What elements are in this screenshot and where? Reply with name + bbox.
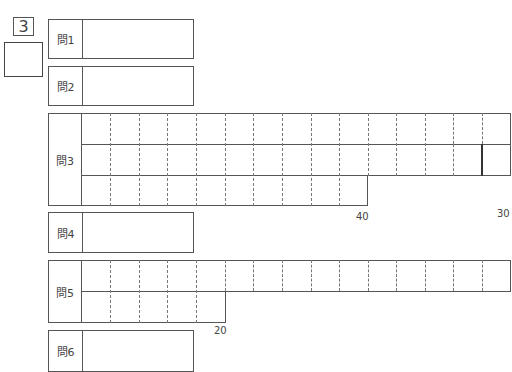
question-4-label: 問4 — [49, 213, 83, 252]
score-box[interactable] — [4, 42, 43, 77]
grid-col-divider — [167, 260, 168, 323]
question-3-label: 問3 — [56, 152, 74, 168]
question-5-label: 問5 — [56, 284, 74, 300]
question-5-grid-row-1[interactable] — [81, 260, 511, 292]
grid-col-divider — [311, 113, 312, 206]
question-2-label: 問2 — [49, 67, 83, 105]
grid-col-divider — [396, 113, 397, 176]
grid-col-divider — [453, 260, 454, 291]
question-3-label-cell: 問3 — [48, 113, 82, 206]
question-6-label: 問6 — [49, 331, 83, 371]
grid-col-divider — [311, 260, 312, 291]
grid-col-divider — [425, 260, 426, 291]
char-count-marker-20: 20 — [214, 325, 227, 336]
question-1-answer-field[interactable] — [83, 20, 193, 58]
question-6-answer-field[interactable] — [83, 331, 193, 371]
section-number: 3 — [13, 17, 34, 36]
grid-col-divider — [196, 260, 197, 323]
question-3-box: 問3 — [48, 113, 511, 206]
grid-col-divider — [110, 113, 111, 206]
grid-col-divider — [396, 260, 397, 291]
char-count-marker-30: 30 — [497, 208, 510, 219]
grid-col-divider — [368, 260, 369, 291]
grid-col-divider — [253, 260, 254, 291]
grid-col-divider — [282, 260, 283, 291]
grid-col-divider — [339, 260, 340, 291]
grid-col-divider — [225, 113, 226, 206]
grid-col-divider — [453, 113, 454, 144]
question-2-answer-field[interactable] — [83, 67, 193, 105]
grid-col-divider — [110, 260, 111, 323]
question-2-box: 問2 — [48, 66, 194, 106]
char-count-marker-40: 40 — [356, 211, 369, 222]
grid-col-divider — [196, 113, 197, 206]
grid-col-divider — [482, 113, 483, 144]
grid-col-divider — [253, 113, 254, 206]
question-1-label: 問1 — [49, 20, 83, 58]
grid-col-divider — [167, 113, 168, 206]
grid-col-divider — [482, 260, 483, 291]
question-5-label-cell: 問5 — [48, 260, 82, 323]
question-5-grid-row-2[interactable] — [81, 291, 226, 323]
grid-marker-line — [481, 144, 483, 176]
grid-col-divider — [139, 260, 140, 323]
question-5-box: 問5 — [48, 260, 511, 323]
grid-col-divider — [425, 113, 426, 176]
grid-col-divider — [139, 113, 140, 206]
grid-row-divider — [81, 144, 511, 145]
question-4-answer-field[interactable] — [83, 213, 193, 252]
question-1-box: 問1 — [48, 19, 194, 59]
grid-col-divider — [282, 113, 283, 206]
grid-col-divider — [368, 113, 369, 176]
question-6-box: 問6 — [48, 330, 194, 372]
grid-col-divider — [339, 113, 340, 206]
grid-col-divider — [225, 260, 226, 291]
grid-col-divider — [453, 144, 454, 176]
question-4-box: 問4 — [48, 212, 194, 253]
